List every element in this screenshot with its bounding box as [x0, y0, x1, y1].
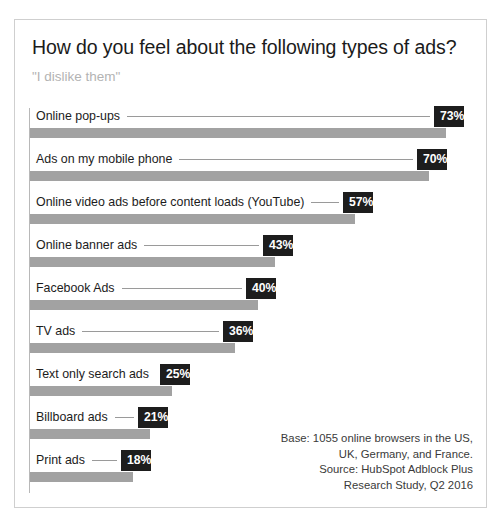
leader-line [311, 202, 339, 203]
source-note: Base: 1055 online browsers in the US, UK… [223, 431, 473, 493]
chart-subtitle: "I dislike them" [32, 69, 120, 84]
bar-row: Online pop-ups73% [29, 108, 474, 151]
bar-row: Online banner ads43% [29, 237, 474, 280]
bar [30, 300, 258, 310]
bar-row-label: Online pop-ups [36, 108, 120, 124]
bar-value-badge: 18% [121, 450, 151, 471]
source-line-1: Base: 1055 online browsers in the US, [223, 431, 473, 447]
chart-title: How do you feel about the following type… [32, 36, 456, 59]
bar-row-label: Text only search ads [36, 366, 149, 382]
bar-row-label: Print ads [36, 452, 85, 468]
bar-value-badge: 57% [343, 192, 373, 213]
chart-card: How do you feel about the following type… [14, 19, 487, 508]
bar-value-badge: 36% [223, 321, 253, 342]
leader-line [122, 288, 242, 289]
bar-row-label: Facebook Ads [36, 280, 115, 296]
leader-line [92, 460, 117, 461]
bar-row-label: Billboard ads [36, 409, 108, 425]
bar [30, 429, 150, 439]
bar-value-badge: 73% [434, 106, 464, 127]
bar-row-label: Online banner ads [36, 237, 137, 253]
bar-value-badge: 40% [246, 278, 276, 299]
source-line-3: Source: HubSpot Adblock Plus [223, 462, 473, 478]
leader-line [82, 331, 219, 332]
bar [30, 171, 429, 181]
bar [30, 386, 172, 396]
bar-value-badge: 21% [138, 407, 168, 428]
bar-row-label: Ads on my mobile phone [36, 151, 172, 167]
bar [30, 214, 355, 224]
leader-line [144, 245, 259, 246]
bar-value-badge: 43% [263, 235, 293, 256]
bar-row: Ads on my mobile phone70% [29, 151, 474, 194]
bar-value-badge: 25% [160, 364, 190, 385]
bar-row-label: TV ads [36, 323, 75, 339]
bar-value-badge: 70% [417, 149, 447, 170]
bar [30, 257, 275, 267]
leader-line [179, 159, 413, 160]
bar [30, 343, 235, 353]
bar [30, 472, 133, 482]
leader-line [115, 417, 134, 418]
source-line-2: UK, Germany, and France. [223, 447, 473, 463]
bar [30, 128, 446, 138]
leader-line [127, 116, 430, 117]
bar-row: Online video ads before content loads (Y… [29, 194, 474, 237]
bar-row: Facebook Ads40% [29, 280, 474, 323]
bar-row: Text only search ads25% [29, 366, 474, 409]
bar-row-label: Online video ads before content loads (Y… [36, 194, 304, 210]
source-line-4: Research Study, Q2 2016 [223, 478, 473, 494]
bar-row: TV ads36% [29, 323, 474, 366]
